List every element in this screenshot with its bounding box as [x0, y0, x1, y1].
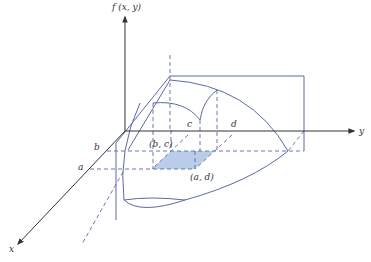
tick-label-a: a — [78, 163, 83, 172]
point-label-bc: (b, c) — [149, 140, 173, 149]
axes — [18, 17, 354, 244]
point-label-ad: (a, d) — [190, 173, 214, 182]
double-integral-diagram: f (x, y) y x b a c d (b, c) (a, d) — [0, 0, 371, 262]
f-axis-label: f (x, y) — [112, 3, 141, 12]
tick-label-c: c — [187, 120, 192, 129]
x-axis — [18, 131, 125, 244]
tick-label-d: d — [231, 120, 237, 129]
x-axis-label: x — [9, 245, 14, 254]
diagram-canvas — [0, 0, 371, 262]
surface-outline — [116, 76, 304, 220]
y-axis-label: y — [359, 127, 364, 136]
tick-label-b: b — [94, 143, 100, 152]
